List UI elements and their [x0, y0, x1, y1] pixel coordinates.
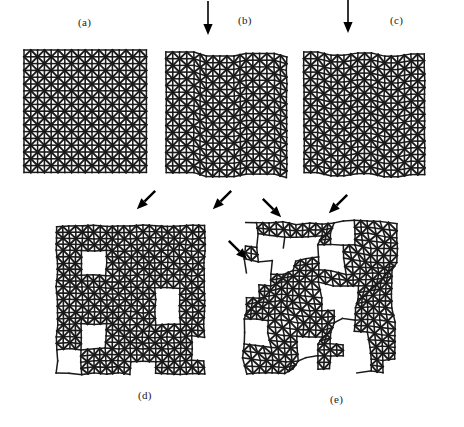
panel-label-e: (e) — [330, 393, 343, 405]
defect-arrow-icon — [318, 184, 358, 224]
arrow-e-1 — [218, 230, 258, 270]
panel-e: (e) — [0, 0, 464, 427]
arrow-e-3 — [318, 184, 358, 224]
lattice-deformation-figure: (a)(b)(c)(d)(e) — [0, 0, 464, 427]
defect-arrow-icon — [252, 188, 292, 228]
arrow-e-2 — [252, 188, 292, 228]
defect-arrow-icon — [218, 230, 258, 270]
